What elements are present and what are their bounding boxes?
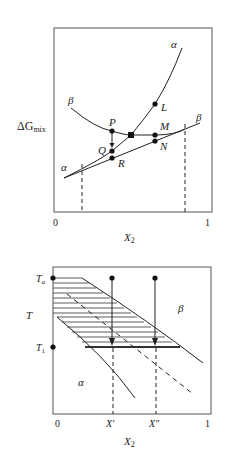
dashed-curve bbox=[67, 294, 193, 394]
label-beta-left: β bbox=[67, 94, 74, 106]
point-t1 bbox=[50, 344, 55, 349]
point-q bbox=[109, 148, 114, 153]
point-r bbox=[109, 155, 114, 160]
label-q: Q bbox=[98, 144, 106, 156]
x-axis-label-bottom: X2 bbox=[123, 435, 135, 449]
point-n bbox=[152, 138, 157, 143]
y-tick-ta: Ta bbox=[36, 273, 46, 286]
label-n: N bbox=[159, 140, 168, 152]
bottom-plot-frame bbox=[53, 267, 211, 414]
x-tick-x-double-prime: X″ bbox=[148, 418, 160, 429]
label-r: R bbox=[117, 157, 125, 169]
label-beta-right: β bbox=[195, 111, 202, 123]
point-l bbox=[152, 101, 157, 106]
x-tick-x-prime: X′ bbox=[105, 418, 115, 429]
y-tick-t1: T1 bbox=[36, 342, 46, 355]
alpha-boundary bbox=[57, 317, 135, 398]
point-p bbox=[109, 128, 114, 133]
x-tick-0: 0 bbox=[53, 217, 58, 228]
y-axis-label-t: T bbox=[26, 309, 33, 321]
label-l: L bbox=[160, 101, 167, 113]
label-p: P bbox=[108, 116, 116, 128]
arrowhead-icon bbox=[110, 143, 115, 148]
intersection-square bbox=[128, 132, 134, 138]
common-tangent-line bbox=[64, 123, 200, 178]
region-alpha-label: α bbox=[78, 376, 84, 388]
point-m bbox=[152, 132, 157, 137]
x-tick-1-bottom: 1 bbox=[205, 418, 210, 429]
phase-diagram-panel: β α Ta T1 T 0 X′ X″ 1 X2 bbox=[26, 267, 211, 449]
thermo-diagram: P Q R L M N α β β α ΔGmix 0 1 X2 bbox=[0, 0, 228, 471]
top-plot-frame bbox=[54, 28, 212, 212]
y-axis-label-dg: ΔGmix bbox=[17, 119, 46, 134]
x-tick-1: 1 bbox=[205, 217, 210, 228]
beta-boundary bbox=[82, 278, 203, 363]
x-tick-0-bottom: 0 bbox=[55, 418, 60, 429]
point-x-prime-start bbox=[109, 275, 114, 280]
label-alpha-left: α bbox=[61, 161, 67, 173]
point-ta bbox=[50, 275, 55, 280]
free-energy-panel: P Q R L M N α β β α ΔGmix 0 1 X2 bbox=[17, 28, 212, 245]
label-alpha-top: α bbox=[171, 38, 177, 50]
x-axis-label-top: X2 bbox=[123, 231, 135, 245]
point-x-double-prime-start bbox=[152, 275, 157, 280]
region-beta-label: β bbox=[177, 302, 184, 314]
label-m: M bbox=[159, 120, 170, 132]
